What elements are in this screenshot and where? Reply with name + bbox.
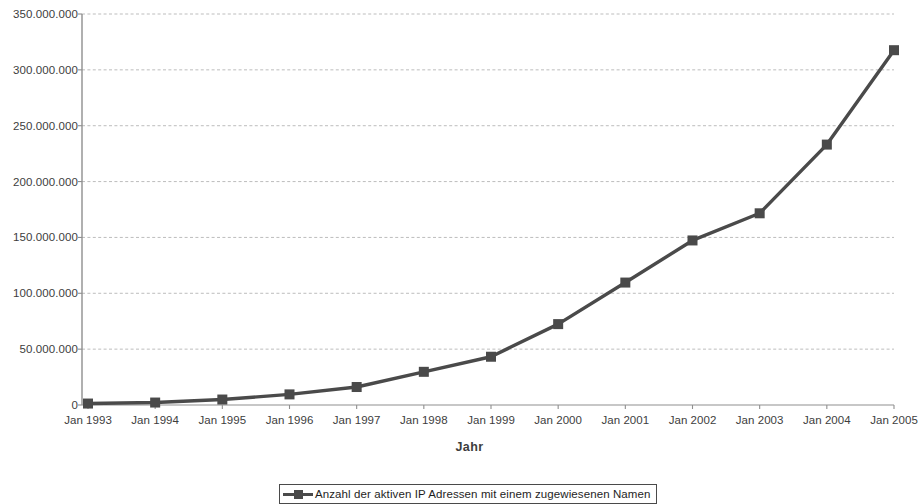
legend-line-square-marker-icon xyxy=(283,488,313,500)
data-point-marker xyxy=(889,45,899,55)
x-axis-tick-label: Jan 1999 xyxy=(467,414,515,426)
data-point-marker xyxy=(822,140,832,150)
x-axis-tick-label: Jan 1993 xyxy=(64,414,112,426)
x-axis-tick-label: Jan 2004 xyxy=(803,414,851,426)
x-axis-tick-label: Jan 1996 xyxy=(266,414,314,426)
data-point-marker xyxy=(755,208,765,218)
chart-page: 050.000.000100.000.000150.000.000200.000… xyxy=(0,0,923,504)
chart-legend: Anzahl der aktiven IP Adressen mit einem… xyxy=(279,484,657,504)
y-axis-tick-label: 50.000.000 xyxy=(0,343,78,355)
x-axis-tick-label: Jan 2003 xyxy=(736,414,784,426)
data-point-marker xyxy=(217,395,227,405)
y-axis-tick-label: 250.000.000 xyxy=(0,120,78,132)
data-point-marker xyxy=(285,389,295,399)
data-point-marker xyxy=(620,278,630,288)
series-line-path xyxy=(88,50,894,403)
x-axis-tick-label: Jan 2005 xyxy=(870,414,918,426)
plot-area xyxy=(82,14,894,405)
y-axis-tick-label: 300.000.000 xyxy=(0,64,78,76)
series-markers xyxy=(83,45,899,408)
x-axis-tick-label: Jan 2002 xyxy=(669,414,717,426)
x-axis-tick-label: Jan 1997 xyxy=(333,414,381,426)
y-axis-tick-label: 150.000.000 xyxy=(0,231,78,243)
gridlines xyxy=(82,14,894,349)
data-point-marker xyxy=(553,319,563,329)
x-axis-tick-labels: Jan 1993Jan 1994Jan 1995Jan 1996Jan 1997… xyxy=(0,414,923,434)
x-axis-tick-label: Jan 2001 xyxy=(601,414,649,426)
y-axis-tick-label: 200.000.000 xyxy=(0,176,78,188)
x-axis-tick-label: Jan 1994 xyxy=(131,414,179,426)
x-axis-title: Jahr xyxy=(0,440,923,454)
data-point-marker xyxy=(486,352,496,362)
y-axis-tick-labels: 050.000.000100.000.000150.000.000200.000… xyxy=(0,0,78,420)
x-axis-tick-label: Jan 1998 xyxy=(400,414,448,426)
series-plot xyxy=(82,14,894,405)
y-axis-tick-label: 100.000.000 xyxy=(0,287,78,299)
x-axis-tick-label: Jan 1995 xyxy=(198,414,246,426)
x-axis-tick-label: Jan 2000 xyxy=(534,414,582,426)
data-point-marker xyxy=(83,399,93,409)
data-point-marker xyxy=(150,398,160,408)
data-point-marker xyxy=(352,382,362,392)
x-axis-title-text: Jahr xyxy=(455,440,483,454)
y-axis-tick-label: 0 xyxy=(0,399,78,411)
legend-entry-label: Anzahl der aktiven IP Adressen mit einem… xyxy=(315,488,651,500)
data-point-marker xyxy=(688,235,698,245)
y-axis-tick-label: 350.000.000 xyxy=(0,8,78,20)
data-point-marker xyxy=(419,367,429,377)
chart-canvas: 050.000.000100.000.000150.000.000200.000… xyxy=(0,0,923,470)
